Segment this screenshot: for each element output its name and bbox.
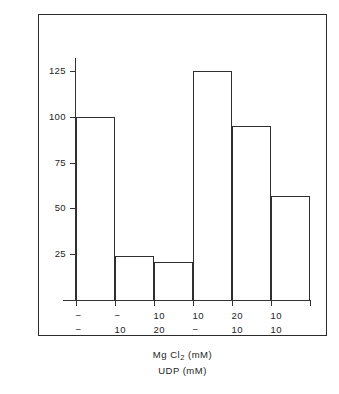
category-label-udp: 20 <box>154 323 194 336</box>
caption-mgcl2-text: Mg Cl <box>153 349 180 360</box>
category-label-grid: −−−10102010−20101010 <box>0 0 339 394</box>
category-label-mgcl2: 20 <box>232 309 272 322</box>
category-label-mgcl2: − <box>115 309 155 322</box>
category-label-mgcl2: − <box>76 309 116 322</box>
category-label-udp: 10 <box>271 323 311 336</box>
category-label-udp: 10 <box>232 323 272 336</box>
caption-mgcl2: Mg Cl2 (mM) <box>38 347 327 363</box>
category-label-mgcl2: 10 <box>154 309 194 322</box>
category-label-mgcl2: 10 <box>193 309 233 322</box>
x-axis-captions: Mg Cl2 (mM) UDP (mM) <box>38 347 327 378</box>
caption-mgcl2-units: (mM) <box>185 349 212 360</box>
caption-udp: UDP (mM) <box>38 363 327 378</box>
category-label-udp: 10 <box>115 323 155 336</box>
category-label-mgcl2: 10 <box>271 309 311 322</box>
category-label-udp: − <box>76 323 116 336</box>
caption-mgcl2-subscript: 2 <box>180 353 185 362</box>
category-label-udp: − <box>193 323 233 336</box>
